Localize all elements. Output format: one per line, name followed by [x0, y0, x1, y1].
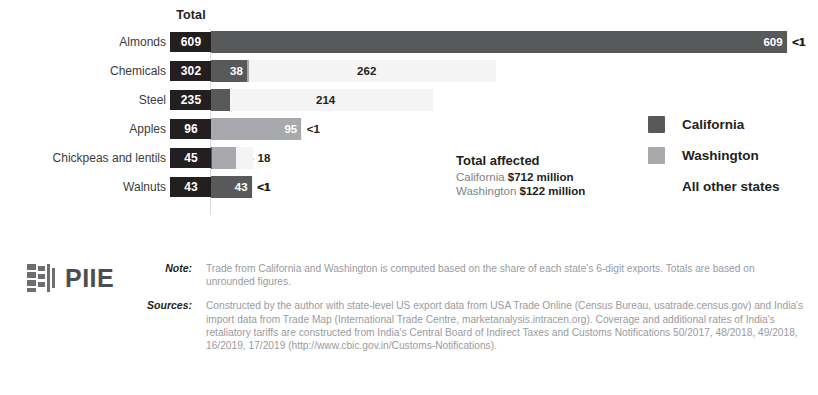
bar-segment-value: 214	[316, 89, 335, 111]
category-label: Almonds	[0, 35, 166, 49]
total-value-chip: 43	[170, 177, 212, 197]
piie-logo: PIIE	[25, 262, 114, 294]
affected-state-name: California	[456, 171, 505, 183]
bar-segment-value: 38	[227, 60, 243, 82]
piie-logo-mark-icon	[25, 262, 59, 294]
bar-segment-value: 95	[281, 118, 297, 140]
total-value-chip: 45	[170, 148, 212, 168]
legend-label: Washington	[682, 143, 759, 168]
footnotes: Note: Trade from California and Washingt…	[130, 262, 818, 363]
bar-segment-ca	[211, 31, 787, 53]
category-label: Chickpeas and lentils	[0, 151, 166, 165]
chart-row: Almonds609609<1<1	[0, 29, 818, 58]
total-affected-row: Washington $122 million	[456, 184, 585, 198]
total-value-chip: 609	[170, 32, 212, 52]
bar-segment-wa	[212, 147, 236, 169]
total-value-chip: 302	[170, 61, 212, 81]
category-label: Steel	[0, 93, 166, 107]
legend-item-all-other-states: All other states	[648, 174, 818, 202]
bar-segment-value: 609	[760, 31, 783, 53]
footer: PIIE Note: Trade from California and Was…	[0, 258, 818, 395]
bar-segment-value: <1	[793, 31, 806, 53]
note-row: Note: Trade from California and Washingt…	[130, 262, 818, 288]
chart-legend: California Washington All other states	[648, 112, 818, 205]
total-affected-title: Total affected	[456, 153, 585, 168]
note-text: Trade from California and Washington is …	[206, 262, 806, 288]
affected-amount: $122 million	[520, 185, 586, 197]
total-affected-row: California $712 million	[456, 170, 585, 184]
legend-swatch-icon	[648, 116, 665, 133]
chart-row: Chemicals302382262	[0, 58, 818, 87]
bar-plot: 20<1214	[211, 89, 818, 111]
total-column-header: Total	[170, 8, 212, 22]
category-label: Walnuts	[0, 180, 166, 194]
legend-swatch-icon	[648, 178, 665, 195]
total-value-chip: 96	[170, 119, 212, 139]
bar-plot: 382262	[211, 60, 818, 82]
category-label: Apples	[0, 122, 166, 136]
legend-label: California	[682, 112, 744, 137]
total-value-chip: 235	[170, 90, 212, 110]
note-label: Note:	[130, 262, 192, 274]
category-label: Chemicals	[0, 64, 166, 78]
bar-segment-value: 43	[232, 176, 248, 198]
sources-text: Constructed by the author with state-lev…	[206, 299, 806, 352]
legend-item-washington: Washington	[648, 143, 818, 171]
legend-item-california: California	[648, 112, 818, 140]
total-affected-block: Total affected California $712 million W…	[456, 153, 585, 198]
bar-plot: 609<1<1	[211, 31, 818, 53]
bar-segment-value: 18	[258, 147, 271, 169]
bar-segment-value: <1	[258, 176, 271, 198]
bar-segment-value: 262	[357, 60, 376, 82]
bar-segment-ca	[211, 89, 230, 111]
legend-label: All other states	[682, 174, 780, 199]
sources-row: Sources: Constructed by the author with …	[130, 299, 818, 352]
affected-amount: $712 million	[508, 171, 574, 183]
sources-label: Sources:	[130, 299, 192, 311]
bar-segment-ot	[236, 147, 253, 169]
affected-state-name: Washington	[456, 185, 516, 197]
bar-segment-value: <1	[307, 118, 320, 140]
piie-logo-text: PIIE	[65, 264, 114, 293]
legend-swatch-icon	[648, 147, 665, 164]
